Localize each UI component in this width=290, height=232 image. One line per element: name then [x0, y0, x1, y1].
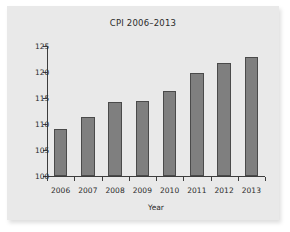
x-axis-tick-label: 2012: [215, 186, 234, 195]
bar-2009: [136, 101, 150, 176]
x-axis-tick-label: 2007: [78, 186, 97, 195]
y-axis-line: [47, 46, 48, 177]
y-axis-tick-label: 115: [35, 94, 41, 103]
bar-2007: [81, 117, 95, 176]
x-axis-tick-label: 2006: [51, 186, 70, 195]
x-axis-tick: [47, 177, 48, 181]
figure-card: CPI 2006–2013 100105110115120125 2006200…: [7, 6, 279, 220]
x-axis-tick-label: 2013: [242, 186, 261, 195]
bar-2013: [245, 57, 259, 176]
y-axis-tick-label: 100: [35, 172, 41, 181]
x-axis-tick: [211, 177, 212, 181]
x-axis-tick: [238, 177, 239, 181]
x-axis-tick: [156, 177, 157, 181]
chart-page: CPI 2006–2013 100105110115120125 2006200…: [0, 0, 290, 232]
chart-title: CPI 2006–2013: [7, 18, 279, 28]
bar-2012: [217, 63, 231, 176]
x-axis-title: Year: [47, 203, 265, 212]
x-axis-tick: [129, 177, 130, 181]
x-axis-tick: [102, 177, 103, 181]
y-axis-tick-label: 125: [35, 42, 41, 51]
bar-2006: [54, 129, 68, 176]
x-axis-tick-label: 2009: [133, 186, 152, 195]
bar-2010: [163, 91, 177, 176]
x-axis-tick-label: 2010: [160, 186, 179, 195]
bar-2011: [190, 73, 204, 176]
x-axis-tick: [265, 177, 266, 181]
y-axis-tick-label: 120: [35, 68, 41, 77]
x-axis-tick-label: 2011: [187, 186, 206, 195]
plot-area: 100105110115120125 200620072008200920102…: [47, 46, 265, 177]
bar-2008: [108, 102, 122, 176]
y-axis-tick-label: 105: [35, 146, 41, 155]
x-axis-tick: [74, 177, 75, 181]
x-axis-tick-label: 2008: [106, 186, 125, 195]
x-axis-tick: [183, 177, 184, 181]
y-axis-tick-label: 110: [35, 120, 41, 129]
